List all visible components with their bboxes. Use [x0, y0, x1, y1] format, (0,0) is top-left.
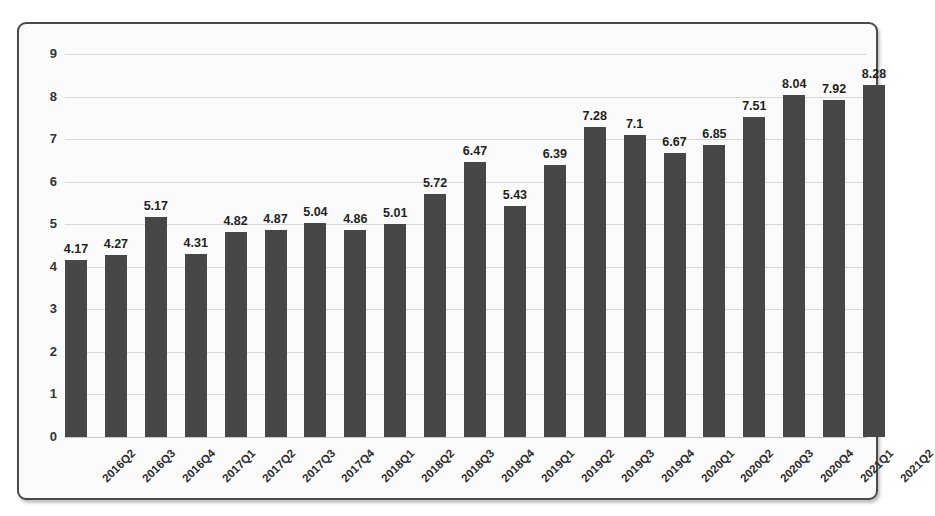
bar[interactable]	[863, 85, 885, 437]
bar-value-label: 4.31	[171, 237, 221, 250]
bar-value-label: 6.47	[450, 145, 500, 158]
bar[interactable]	[624, 135, 646, 437]
bar[interactable]	[304, 223, 326, 437]
y-axis-tick-label: 3	[19, 302, 57, 315]
x-axis-tick-label: 2018Q3	[459, 447, 496, 484]
bar[interactable]	[743, 117, 765, 437]
bar[interactable]	[664, 153, 686, 437]
gridline-8	[65, 97, 867, 98]
x-axis-tick-label: 2017Q4	[339, 447, 376, 484]
bar[interactable]	[145, 217, 167, 437]
bar-value-label: 7.1	[610, 118, 660, 131]
x-axis-tick-label: 2017Q3	[299, 447, 336, 484]
bar-value-label: 5.43	[490, 189, 540, 202]
y-axis-tick-label: 6	[19, 175, 57, 188]
bar-value-label: 8.28	[849, 68, 899, 81]
bar[interactable]	[105, 255, 127, 437]
x-axis-tick-label: 2018Q4	[499, 447, 536, 484]
plot-area: 0123456789 4.174.275.174.314.824.875.044…	[19, 24, 880, 502]
bar[interactable]	[504, 206, 526, 437]
y-axis-tick-label: 2	[19, 345, 57, 358]
x-axis-tick-label: 2016Q4	[180, 447, 217, 484]
bar[interactable]	[65, 260, 87, 437]
bar-value-label: 5.17	[131, 200, 181, 213]
gridline-0	[65, 437, 867, 438]
x-axis-tick-label: 2017Q2	[260, 447, 297, 484]
bar[interactable]	[265, 230, 287, 437]
x-axis-tick-label: 2018Q1	[379, 447, 416, 484]
x-axis-tick-label: 2020Q2	[738, 447, 775, 484]
bar[interactable]	[584, 127, 606, 437]
y-axis-tick-label: 5	[19, 217, 57, 230]
y-axis-tick-label: 4	[19, 260, 57, 273]
gridline-9	[65, 54, 867, 55]
x-axis-tick-label: 2021Q2	[898, 447, 935, 484]
x-axis-tick-label: 2019Q1	[539, 447, 576, 484]
bar-value-label: 4.27	[91, 238, 141, 251]
x-axis-tick-label: 2020Q4	[818, 447, 855, 484]
bar-value-label: 7.51	[729, 100, 779, 113]
x-axis-tick-label: 2019Q4	[659, 447, 696, 484]
y-axis-tick-label: 7	[19, 132, 57, 145]
y-axis-tick-label: 0	[19, 430, 57, 443]
x-axis-tick-label: 2016Q2	[100, 447, 137, 484]
bar-value-label: 7.92	[809, 83, 859, 96]
x-axis-tick-label: 2021Q1	[858, 447, 895, 484]
x-axis-tick-label: 2020Q1	[698, 447, 735, 484]
bar[interactable]	[344, 230, 366, 437]
y-axis-tick-label: 8	[19, 90, 57, 103]
bar[interactable]	[464, 162, 486, 437]
bar[interactable]	[544, 165, 566, 437]
y-axis-tick-label: 9	[19, 47, 57, 60]
bar[interactable]	[783, 95, 805, 437]
bar[interactable]	[185, 254, 207, 437]
bar-value-label: 5.72	[410, 177, 460, 190]
x-axis-tick-label: 2019Q3	[619, 447, 656, 484]
bar[interactable]	[225, 232, 247, 437]
y-axis-tick-label: 1	[19, 387, 57, 400]
bar[interactable]	[384, 224, 406, 437]
x-axis-tick-label: 2017Q1	[220, 447, 257, 484]
x-axis-tick-label: 2016Q3	[140, 447, 177, 484]
bar[interactable]	[823, 100, 845, 437]
bar-value-label: 6.39	[530, 148, 580, 161]
x-axis-tick-label: 2020Q3	[778, 447, 815, 484]
bar[interactable]	[703, 145, 725, 437]
x-axis-tick-label: 2018Q2	[419, 447, 456, 484]
bar-value-label: 5.01	[370, 207, 420, 220]
bar-value-label: 6.85	[689, 128, 739, 141]
bar[interactable]	[424, 194, 446, 437]
x-axis-tick-label: 2019Q2	[579, 447, 616, 484]
chart-frame: 0123456789 4.174.275.174.314.824.875.044…	[17, 22, 878, 500]
